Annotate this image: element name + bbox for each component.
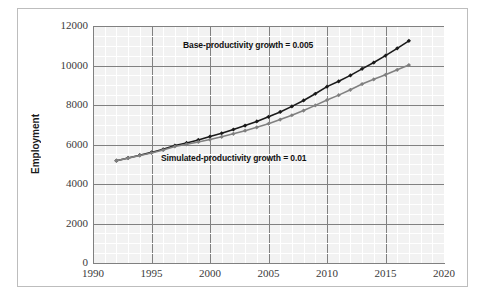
chart-figure: 020004000600080001000012000 199019952000… xyxy=(0,0,482,287)
annotation-simulated-productivity: Simulated-productivity growth = 0.01 xyxy=(161,153,306,163)
x-axis-tick-label: 2010 xyxy=(299,267,355,279)
x-axis-tick-label: 2000 xyxy=(182,267,238,279)
x-axis-tick-label: 1995 xyxy=(124,267,180,279)
x-axis-tick-label: 2005 xyxy=(241,267,297,279)
annotation-base-productivity: Base-productivity growth = 0.005 xyxy=(183,40,313,50)
x-axis-tick-label: 2015 xyxy=(358,267,414,279)
x-axis-tick-label: 1990 xyxy=(65,267,121,279)
x-axis-tick-label: 2020 xyxy=(416,267,472,279)
y-axis-title: Employment xyxy=(30,108,44,180)
